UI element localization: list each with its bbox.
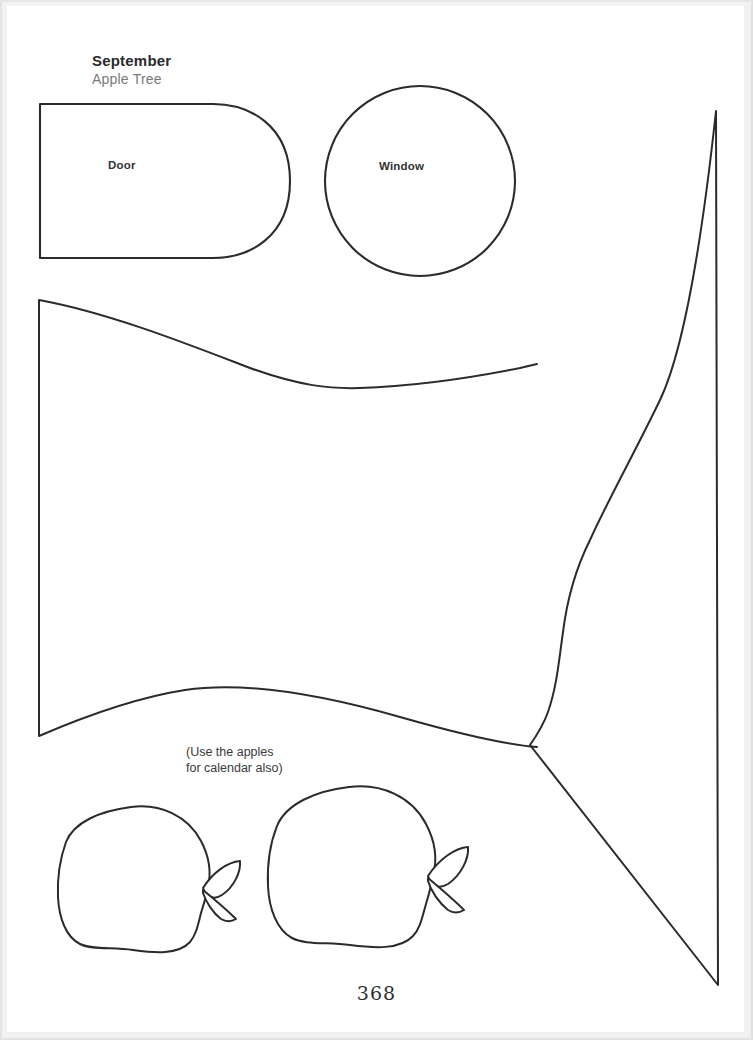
pattern-artboard [0,0,753,1040]
apple-large-body[interactable] [268,786,435,947]
tree-foliage-left-shape[interactable] [39,300,537,747]
door-label: Door [108,159,136,171]
apples-usage-note: (Use the apples for calendar also) [186,744,283,776]
window-shape[interactable] [325,86,515,276]
door-shape[interactable] [40,104,290,258]
page-subtitle: Apple Tree [92,71,162,87]
window-label: Window [379,160,424,172]
tree-foliage-right-shape[interactable] [530,111,718,985]
page-title-month: September [92,52,171,69]
apple-small-body[interactable] [58,806,210,952]
tree-foliage-right-silhouette [537,111,717,985]
pattern-page: September Apple Tree Door Window (Use th… [0,0,753,1040]
page-number: 368 [0,982,753,1004]
